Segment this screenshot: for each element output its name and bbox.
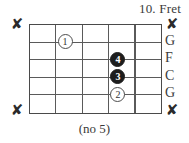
string-label-f: F [165,51,183,65]
string-line [30,94,161,95]
mute-marker-right-top: ✘ [165,17,179,31]
finger-dot-4: 4 [110,52,125,67]
string-line [30,77,161,78]
chord-caption: (no 5) [0,121,189,137]
finger-dot-2: 2 [110,87,125,102]
string-label-g-high: G [165,34,183,48]
mute-marker-right-bottom: ✘ [165,103,179,117]
fret-line [108,25,109,113]
string-line [30,42,161,43]
chord-diagram-root: 10. Fret ✘ ✘ ✘ ✘ G F C G 1 4 3 2 (no 5) [0,0,189,143]
fret-line [82,25,83,113]
mute-marker-left-bottom: ✘ [10,103,24,117]
string-label-g-low: G [165,86,183,100]
fretboard-grid [29,24,162,114]
fret-line [55,25,56,113]
string-line [30,59,161,60]
finger-dot-1: 1 [58,34,73,49]
string-label-c: C [165,69,183,83]
mute-marker-left-top: ✘ [10,17,24,31]
fret-line [134,25,135,113]
